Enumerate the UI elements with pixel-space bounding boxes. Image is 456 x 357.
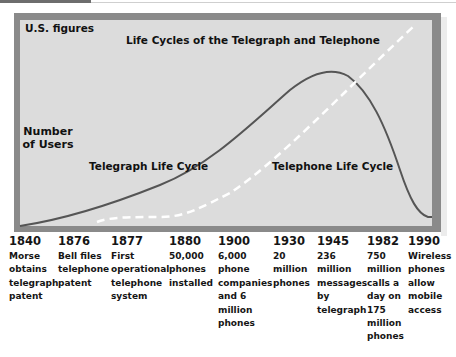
timeline-item: 1900 6,000 phone companies and 6 million… — [218, 234, 264, 330]
timeline-item: 1876 Bell files telephone patent — [58, 234, 114, 290]
timeline-year: 1930 — [273, 234, 313, 249]
telephone-curve — [97, 26, 414, 222]
timeline-year: 1880 — [169, 234, 217, 249]
timeline-item: 1945 236 million messages by telegraph — [317, 234, 363, 317]
timeline-text: 236 million messages by telegraph — [317, 251, 367, 315]
telegraph-series-label: Telegraph Life Cycle — [89, 160, 208, 172]
timeline-text: 50,000 phones installed — [169, 251, 213, 288]
timeline-year: 1877 — [111, 234, 171, 249]
timeline-year: 1990 — [408, 234, 452, 249]
timeline-text: Bell files telephone patent — [58, 251, 109, 288]
timeline-text: 750 million calls a day on 175 million p… — [367, 251, 404, 341]
timeline-text: 20 million phones — [273, 251, 310, 288]
timeline-item: 1990 Wireless phones allow mobile access — [408, 234, 452, 317]
timeline-year: 1840 — [9, 234, 65, 249]
timeline-year: 1900 — [218, 234, 264, 249]
timeline-year: 1982 — [367, 234, 407, 249]
chart-title: Life Cycles of the Telegraph and Telepho… — [126, 34, 380, 46]
telegraph-curve — [20, 72, 432, 226]
timeline-text: First operational telephone system — [111, 251, 169, 301]
telephone-series-label: Telephone Life Cycle — [272, 160, 393, 172]
timeline-year: 1876 — [58, 234, 114, 249]
timeline-year: 1945 — [317, 234, 363, 249]
timeline-item: 1982 750 million calls a day on 175 mill… — [367, 234, 407, 344]
chart-subtitle: U.S. figures — [25, 22, 94, 34]
timeline-item: 1840 Morse obtains telegraph patent — [9, 234, 65, 304]
timeline-text: Morse obtains telegraph patent — [9, 251, 58, 301]
timeline-text: Wireless phones allow mobile access — [408, 251, 451, 315]
timeline-item: 1880 50,000 phones installed — [169, 234, 217, 290]
timeline-item: 1930 20 million phones — [273, 234, 313, 290]
timeline-item: 1877 First operational telephone system — [111, 234, 171, 304]
y-axis-label: Number of Users — [22, 125, 74, 151]
